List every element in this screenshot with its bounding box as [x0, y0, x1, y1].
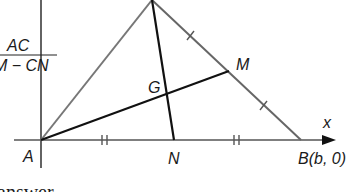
median-CN [152, 0, 174, 140]
label-M: M [236, 56, 250, 73]
label-N: N [168, 150, 180, 167]
label-x-axis: x [322, 114, 332, 131]
fraction-denominator: M − CN [0, 57, 49, 74]
x-axis-arrow-icon [322, 135, 336, 145]
triangle-medians-diagram: AC M − CN M G A N B(b, 0) x answer [0, 0, 361, 192]
label-A: A [22, 148, 34, 165]
label-G: G [148, 79, 160, 96]
fraction-numerator: AC [6, 37, 30, 54]
label-B: B(b, 0) [298, 150, 346, 167]
footer-text: answer [0, 181, 54, 192]
side-CB [152, 0, 301, 140]
fraction-expression: AC M − CN [0, 37, 57, 74]
